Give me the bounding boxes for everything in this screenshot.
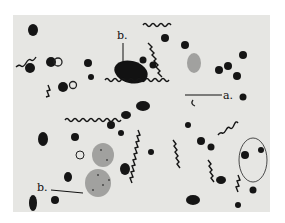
micrograph-drawing xyxy=(13,15,270,212)
label-b-top: b. xyxy=(117,30,128,41)
micrograph-photo xyxy=(13,15,270,212)
label-b-bottom: b. xyxy=(37,182,48,193)
label-a: a. xyxy=(223,90,233,101)
